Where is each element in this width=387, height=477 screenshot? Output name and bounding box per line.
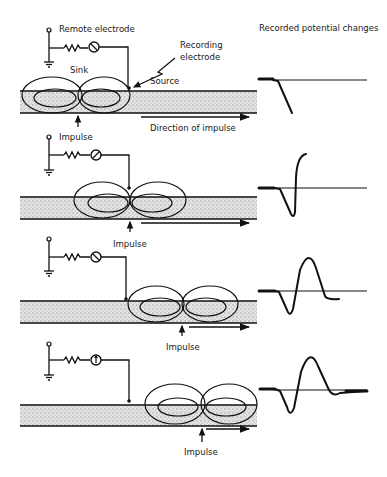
resistor-icon bbox=[64, 357, 90, 363]
resistor-icon bbox=[64, 45, 88, 51]
diagram-canvas: Recorded potential changes Remote electr… bbox=[0, 0, 387, 477]
recording-electrode-tip bbox=[127, 399, 131, 403]
impulse-label: Impulse bbox=[113, 238, 147, 249]
waveform-1 bbox=[259, 79, 367, 113]
waveform-4 bbox=[260, 357, 367, 412]
ground-icon bbox=[44, 62, 54, 67]
circuit-4 bbox=[44, 342, 131, 403]
impulse-label: Impulse bbox=[184, 446, 218, 457]
ground-icon bbox=[44, 271, 54, 276]
recording-electrode-label: Recording bbox=[180, 39, 223, 50]
axon-strip bbox=[20, 197, 257, 219]
axon-strip bbox=[20, 301, 257, 323]
recorded-potentials-title: Recorded potential changes bbox=[259, 22, 379, 33]
waveform-3 bbox=[259, 258, 367, 314]
meter-icon bbox=[89, 42, 99, 52]
source-label: Source bbox=[150, 75, 179, 86]
meter-icon bbox=[91, 150, 101, 160]
ground-icon bbox=[44, 375, 54, 380]
panel-3: Impulse bbox=[20, 237, 367, 352]
electrode-terminal-icon bbox=[47, 342, 51, 346]
waveform-2 bbox=[259, 154, 367, 216]
sink-label: Sink bbox=[70, 64, 88, 75]
panel-2: Impulse bbox=[20, 135, 367, 249]
meter-icon bbox=[91, 252, 101, 262]
electrode-terminal-icon bbox=[47, 28, 51, 32]
axon-strip bbox=[20, 91, 257, 113]
electrode-terminal-icon bbox=[47, 135, 51, 139]
recording-electrode-label-2: electrode bbox=[180, 51, 220, 62]
ground-icon bbox=[44, 170, 54, 175]
resistor-icon bbox=[64, 254, 90, 260]
panel-1: Remote electrode Recording electrode Sin… bbox=[20, 23, 367, 142]
impulse-label: Impulse bbox=[166, 341, 200, 352]
panel-4: Impulse bbox=[20, 342, 367, 457]
meter-icon bbox=[91, 355, 101, 365]
resistor-icon bbox=[64, 152, 90, 158]
impulse-label: Impulse bbox=[59, 131, 93, 142]
recording-electrode-tip bbox=[127, 186, 131, 190]
circuit-2 bbox=[44, 135, 131, 190]
direction-label: Direction of impulse bbox=[150, 122, 236, 133]
remote-electrode-label: Remote electrode bbox=[59, 23, 135, 34]
electrode-terminal-icon bbox=[47, 237, 51, 241]
